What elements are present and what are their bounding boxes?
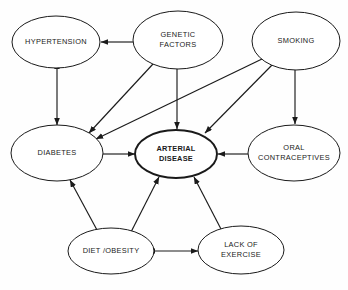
- node-arterial_disease[interactable]: ARTERIALDISEASE: [135, 130, 217, 178]
- node-diabetes[interactable]: DIABETES: [11, 125, 103, 181]
- diagram-canvas: HYPERTENSIONGENETICFACTORSSMOKINGDIABETE…: [0, 0, 348, 290]
- node-lack_of_exercise[interactable]: LACK OFEXERCISE: [198, 226, 284, 274]
- node-smoking[interactable]: SMOKING: [252, 12, 340, 70]
- node-label-hypertension: HYPERTENSION: [25, 37, 87, 46]
- node-label-diet_obesity: DIET /OBESITY: [83, 246, 140, 255]
- edge-diet-to-diabetes: [70, 180, 97, 230]
- node-label-genetic_factors: GENETIC: [161, 30, 196, 39]
- node-label-genetic_factors: FACTORS: [160, 40, 197, 49]
- node-label-arterial_disease: DISEASE: [159, 154, 193, 163]
- edge-exercise-to-arterial: [194, 177, 222, 231]
- node-genetic_factors[interactable]: GENETICFACTORS: [133, 11, 223, 69]
- node-label-oral_contraceptives: ORAL: [283, 143, 304, 152]
- node-label-arterial_disease: ARTERIAL: [157, 144, 196, 153]
- node-hypertension[interactable]: HYPERTENSION: [12, 16, 100, 68]
- risk-factor-diagram: HYPERTENSIONGENETICFACTORSSMOKINGDIABETE…: [0, 0, 348, 290]
- edge-genetic-to-diabetes: [89, 64, 153, 133]
- node-oral_contraceptives[interactable]: ORALCONTRACEPTIVES: [248, 125, 340, 181]
- node-label-diabetes: DIABETES: [38, 148, 77, 157]
- edge-diet-to-arterial: [131, 177, 159, 232]
- node-diet_obesity[interactable]: DIET /OBESITY: [68, 228, 154, 274]
- node-label-smoking: SMOKING: [277, 36, 314, 45]
- node-label-lack_of_exercise: LACK OF: [224, 240, 258, 249]
- node-label-oral_contraceptives: CONTRACEPTIVES: [258, 153, 330, 162]
- node-label-lack_of_exercise: EXERCISE: [221, 250, 261, 259]
- nodes-layer: HYPERTENSIONGENETICFACTORSSMOKINGDIABETE…: [11, 11, 340, 274]
- edge-smoking-to-arterial: [205, 63, 274, 133]
